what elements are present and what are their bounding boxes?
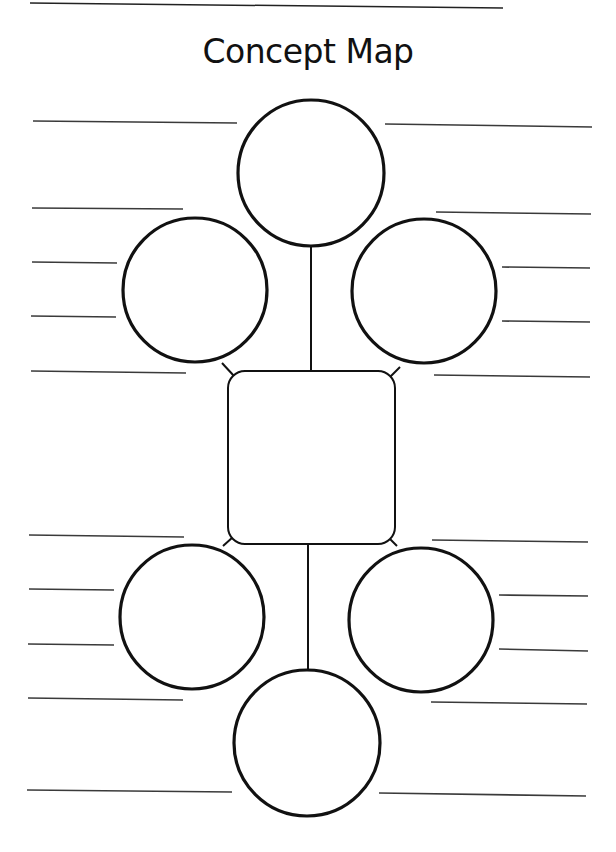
upper-right-concept-circle[interactable]: [352, 219, 496, 363]
bottom-concept-circle[interactable]: [234, 670, 380, 816]
writing-line[interactable]: [27, 790, 232, 792]
writing-line[interactable]: [499, 649, 588, 651]
writing-line[interactable]: [32, 208, 183, 209]
writing-line[interactable]: [385, 124, 592, 127]
connector-upper-left: [222, 363, 234, 376]
writing-line[interactable]: [379, 793, 586, 796]
writing-line[interactable]: [29, 589, 114, 590]
writing-line[interactable]: [28, 698, 183, 700]
writing-line[interactable]: [436, 212, 591, 214]
writing-line[interactable]: [502, 267, 590, 268]
writing-line[interactable]: [434, 375, 590, 377]
writing-line[interactable]: [31, 316, 116, 317]
concept-map-worksheet: Concept Map: [0, 0, 616, 852]
writing-line[interactable]: [432, 540, 588, 542]
writing-line[interactable]: [29, 535, 184, 537]
central-concept-box[interactable]: [228, 371, 395, 544]
upper-left-concept-circle[interactable]: [123, 218, 267, 362]
top-concept-circle[interactable]: [238, 100, 384, 246]
writing-line[interactable]: [33, 121, 237, 123]
concept-map-diagram: [0, 0, 616, 852]
lower-right-concept-circle[interactable]: [349, 548, 493, 692]
writing-line[interactable]: [32, 262, 117, 263]
header-rule: [30, 3, 503, 8]
lower-left-concept-circle[interactable]: [120, 545, 264, 689]
writing-line[interactable]: [31, 371, 186, 373]
writing-line[interactable]: [499, 595, 588, 596]
writing-line[interactable]: [431, 702, 587, 704]
writing-line[interactable]: [502, 321, 590, 322]
writing-line[interactable]: [28, 644, 114, 645]
